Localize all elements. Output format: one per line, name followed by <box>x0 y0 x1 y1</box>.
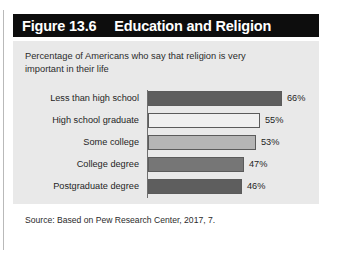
bar-track: 66% <box>148 90 305 106</box>
bar-category-label: High school graduate <box>25 115 143 125</box>
bar-chart: Less than high school 66% High school gr… <box>25 90 310 198</box>
bar-category-label: Postgraduate degree <box>25 181 143 191</box>
bar-value-label: 47% <box>249 159 267 169</box>
bar-value-label: 55% <box>265 115 283 125</box>
bar-track: 53% <box>148 134 279 150</box>
figure-title-bar: Figure 13.6 Education and Religion <box>13 14 319 37</box>
figure-container: Figure 13.6 Education and Religion Perce… <box>0 0 343 255</box>
bar-value-label: 46% <box>247 181 265 191</box>
chart-subtitle: Percentage of Americans who say that rel… <box>25 50 275 75</box>
bar-value-label: 66% <box>287 93 305 103</box>
bar-category-label: Some college <box>25 137 143 147</box>
bar-fill <box>148 91 282 106</box>
figure-number-label: Figure 13.6 <box>22 18 96 34</box>
bar-fill <box>148 179 242 194</box>
bar-track: 47% <box>148 156 267 172</box>
bar-fill <box>148 135 256 150</box>
figure-title: Education and Religion <box>114 18 271 34</box>
bar-value-label: 53% <box>261 137 279 147</box>
bar-track: 55% <box>148 112 283 128</box>
figure-source-note: Source: Based on Pew Research Center, 20… <box>25 215 215 225</box>
bar-row: Some college 53% <box>25 134 310 150</box>
bar-row: College degree 47% <box>25 156 310 172</box>
bar-row: Less than high school 66% <box>25 90 310 106</box>
bar-track: 46% <box>148 178 265 194</box>
bar-fill <box>148 113 260 128</box>
bar-row: High school graduate 55% <box>25 112 310 128</box>
left-margin-rule <box>3 10 4 250</box>
bar-category-label: Less than high school <box>25 93 143 103</box>
bar-row: Postgraduate degree 46% <box>25 178 310 194</box>
bar-fill <box>148 157 244 172</box>
bar-category-label: College degree <box>25 159 143 169</box>
